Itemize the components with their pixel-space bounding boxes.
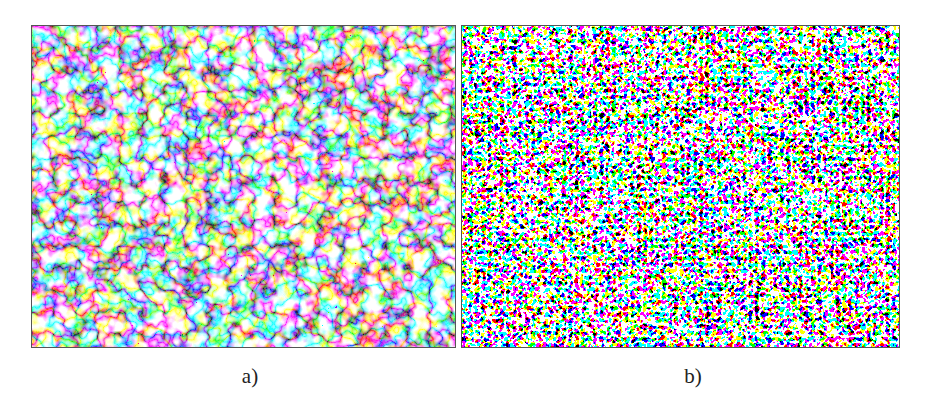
micrograph-panel-b — [461, 25, 900, 348]
panel-a-label: a) — [220, 364, 280, 389]
micrograph-panel-a — [31, 25, 456, 348]
micrograph-b-image — [462, 26, 899, 347]
panel-b-label: b) — [663, 364, 723, 389]
micrograph-a-image — [32, 26, 455, 347]
